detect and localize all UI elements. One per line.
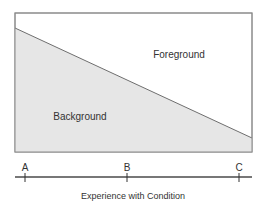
tick-label-a: A — [22, 162, 29, 173]
tick-label-c: C — [235, 162, 242, 173]
tick-label-b: B — [124, 162, 131, 173]
background-label: Background — [53, 111, 106, 122]
foreground-label: Foreground — [153, 49, 205, 60]
figure-ground-diagram: Foreground Background A B C Experience w… — [0, 0, 268, 211]
axis-title: Experience with Condition — [81, 191, 185, 201]
